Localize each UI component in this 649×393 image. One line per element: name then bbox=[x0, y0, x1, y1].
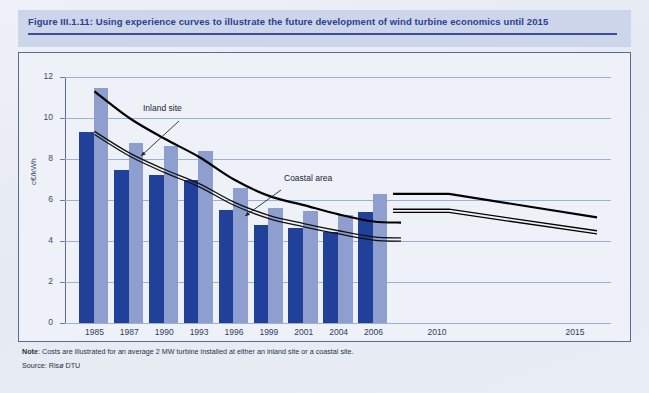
projection-coastal-area-lower bbox=[393, 212, 597, 234]
bar-coastal-area-2006 bbox=[358, 212, 373, 323]
plot-area: c€/kWh 024681012 19851987199019931996199… bbox=[19, 53, 632, 343]
y-tick-label-8: 8 bbox=[27, 153, 53, 163]
bar-inland-site-1999 bbox=[268, 208, 283, 323]
bar-inland-site-1993 bbox=[198, 151, 213, 323]
bar-coastal-area-2001 bbox=[288, 228, 303, 323]
annotation-coastal-area: Coastal area bbox=[284, 173, 332, 183]
bar-coastal-area-1990 bbox=[149, 175, 164, 323]
y-tick-mark-12 bbox=[60, 77, 65, 78]
x-tick-label-2015: 2015 bbox=[555, 327, 595, 337]
bar-inland-site-2006 bbox=[373, 194, 388, 323]
gridline-12 bbox=[65, 77, 611, 78]
figure-source: Source: Risø DTU bbox=[22, 361, 80, 370]
bar-inland-site-1985 bbox=[94, 88, 109, 323]
title-underline-rule bbox=[28, 33, 617, 35]
bar-inland-site-1990 bbox=[164, 146, 179, 323]
figure-title: Figure III.1.11: Using experience curves… bbox=[28, 16, 628, 27]
y-tick-label-4: 4 bbox=[27, 235, 53, 245]
bar-inland-site-2001 bbox=[303, 211, 318, 323]
y-tick-mark-4 bbox=[60, 241, 65, 242]
y-tick-label-0: 0 bbox=[27, 317, 53, 327]
x-tick-label-2006: 2006 bbox=[354, 327, 394, 337]
y-tick-label-2: 2 bbox=[27, 276, 53, 286]
figure-note: Note: Costs are illustrated for an avera… bbox=[22, 347, 354, 356]
note-text: : Costs are illustrated for an average 2… bbox=[38, 347, 354, 356]
gridline-6 bbox=[65, 200, 611, 201]
y-tick-mark-2 bbox=[60, 282, 65, 283]
note-label: Note bbox=[22, 347, 38, 356]
projection-inland-site-projection bbox=[393, 194, 597, 218]
y-tick-mark-10 bbox=[60, 118, 65, 119]
chart-frame: c€/kWh 024681012 19851987199019931996199… bbox=[18, 52, 631, 342]
y-tick-mark-8 bbox=[60, 159, 65, 160]
y-tick-mark-6 bbox=[60, 200, 65, 201]
y-tick-mark-0 bbox=[60, 323, 65, 324]
figure-page: Figure III.1.11: Using experience curves… bbox=[0, 0, 649, 393]
y-tick-label-12: 12 bbox=[27, 71, 53, 81]
bar-inland-site-1987 bbox=[129, 143, 144, 323]
projection-coastal-area-projection bbox=[393, 209, 597, 231]
bar-coastal-area-1996 bbox=[219, 210, 234, 323]
gridline-0 bbox=[65, 323, 611, 324]
gridline-8 bbox=[65, 159, 611, 160]
y-tick-label-6: 6 bbox=[27, 194, 53, 204]
bar-inland-site-1996 bbox=[233, 188, 248, 323]
gridline-10 bbox=[65, 118, 611, 119]
bar-coastal-area-1993 bbox=[184, 180, 199, 324]
bar-coastal-area-1987 bbox=[114, 170, 129, 323]
y-tick-label-10: 10 bbox=[27, 112, 53, 122]
annotation-inland-site: Inland site bbox=[143, 103, 182, 113]
bar-coastal-area-2004 bbox=[323, 232, 338, 323]
bar-coastal-area-1985 bbox=[79, 132, 94, 323]
bar-inland-site-2004 bbox=[338, 215, 353, 323]
x-tick-label-2010: 2010 bbox=[417, 327, 457, 337]
bar-coastal-area-1999 bbox=[254, 225, 269, 323]
